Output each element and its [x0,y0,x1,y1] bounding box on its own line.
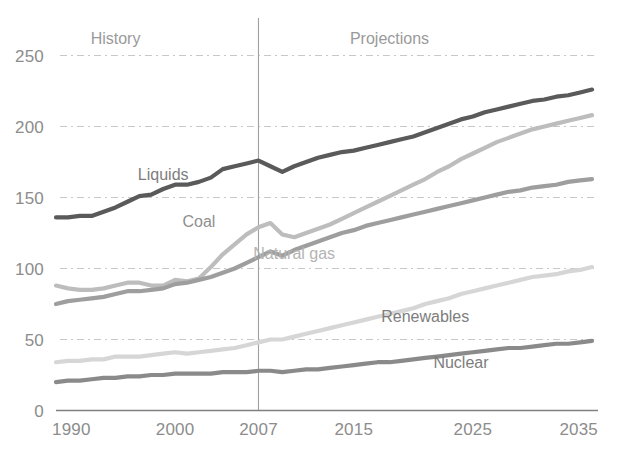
y-tick-label-150: 150 [15,189,44,208]
y-tick-label-0: 0 [34,402,44,421]
y-tick-label-250: 250 [15,47,44,66]
series-label-liquids: Liquids [138,166,189,183]
x-tick-label-2025: 2025 [454,420,493,439]
series-label-coal: Coal [182,213,215,230]
annotation-history: History [91,30,141,47]
annotation-projections: Projections [350,30,429,47]
chart-background [0,0,617,469]
y-tick-label-200: 200 [15,118,44,137]
y-tick-label-50: 50 [25,331,44,350]
series-label-natural-gas: Natural gas [253,245,335,262]
x-tick-label-1990: 1990 [52,420,91,439]
energy-consumption-chart: 050100150200250 199020002007201520252035… [0,0,617,469]
series-label-nuclear: Nuclear [433,354,489,371]
y-tick-label-100: 100 [15,260,44,279]
x-tick-label-2000: 2000 [156,420,195,439]
chart-canvas: 050100150200250 199020002007201520252035… [0,0,617,469]
x-tick-label-2035: 2035 [559,420,598,439]
x-tick-label-2007: 2007 [239,420,278,439]
x-tick-label-2015: 2015 [334,420,373,439]
series-label-renewables: Renewables [381,308,469,325]
